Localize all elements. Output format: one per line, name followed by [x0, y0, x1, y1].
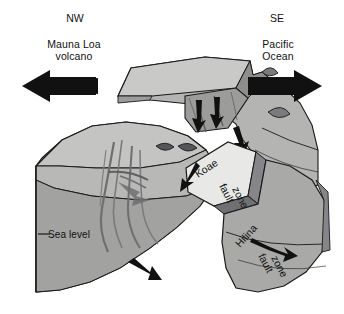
compass-label-nw: NW [40, 12, 110, 24]
compass-label-se: SE [246, 12, 308, 24]
mauna-loa-label: Mauna Loa volcano [18, 38, 130, 62]
nw-motion-arrow [22, 70, 96, 102]
sea-level-label: Sea level [48, 229, 120, 241]
diagram-canvas: Koae fault zone Hilina fault zone NW SE … [0, 0, 344, 314]
pacific-ocean-label: Pacific Ocean [246, 38, 310, 62]
